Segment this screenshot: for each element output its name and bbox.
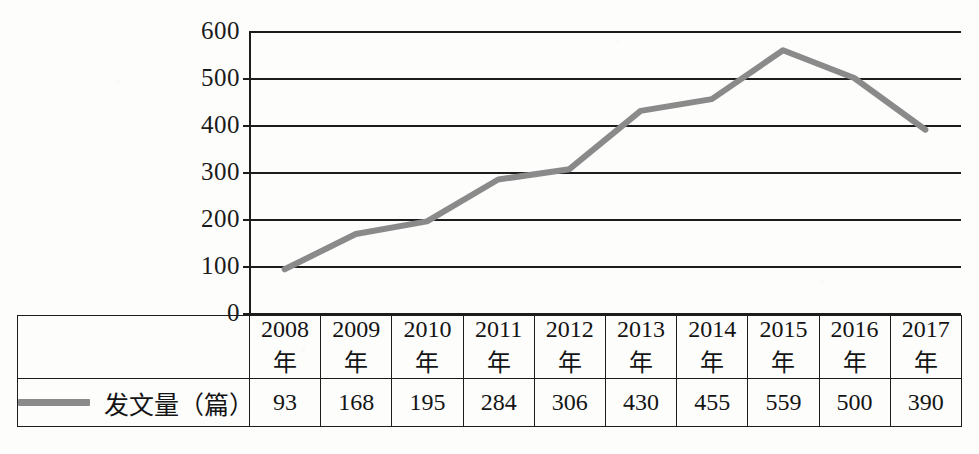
series-line-chart	[249, 31, 961, 313]
year-header-2017: 2017年	[890, 316, 961, 379]
table-header-row: 2008年 2009年 2010年 2011年 2012年 2013年 2014…	[18, 316, 962, 379]
chart-page: 600 500 400 300 200 100 0	[0, 0, 979, 454]
y-axis-label-200: 200	[120, 206, 240, 231]
year-header-2014: 2014年	[677, 316, 748, 379]
value-2016: 500	[819, 379, 890, 427]
value-2013: 430	[605, 379, 676, 427]
year-header-2009: 2009年	[321, 316, 392, 379]
legend-spacer-cell	[18, 316, 250, 379]
data-table: 2008年 2009年 2010年 2011年 2012年 2013年 2014…	[17, 315, 962, 427]
table-value-row: 发文量（篇） 93 168 195 284 306 430 455 559 50…	[18, 379, 962, 427]
plot-area	[249, 31, 961, 313]
year-header-2015: 2015年	[748, 316, 819, 379]
value-2017: 390	[890, 379, 961, 427]
legend-label: 发文量（篇）	[104, 385, 254, 421]
value-2012: 306	[534, 379, 605, 427]
year-header-2011: 2011年	[463, 316, 534, 379]
value-2015: 559	[748, 379, 819, 427]
year-header-2016: 2016年	[819, 316, 890, 379]
value-2010: 195	[392, 379, 463, 427]
y-axis-label-400: 400	[120, 112, 240, 137]
series-polyline-fawenliang	[285, 50, 926, 269]
y-axis-label-500: 500	[120, 65, 240, 90]
value-2009: 168	[321, 379, 392, 427]
year-header-2010: 2010年	[392, 316, 463, 379]
value-2008: 93	[250, 379, 321, 427]
legend-line-swatch-icon	[18, 399, 90, 406]
value-2011: 284	[463, 379, 534, 427]
year-header-2008: 2008年	[250, 316, 321, 379]
y-axis-label-100: 100	[120, 253, 240, 278]
year-header-2012: 2012年	[534, 316, 605, 379]
legend-cell: 发文量（篇）	[18, 379, 250, 427]
year-header-2013: 2013年	[605, 316, 676, 379]
value-2014: 455	[677, 379, 748, 427]
y-axis-label-300: 300	[120, 159, 240, 184]
y-axis-label-600: 600	[120, 18, 240, 43]
